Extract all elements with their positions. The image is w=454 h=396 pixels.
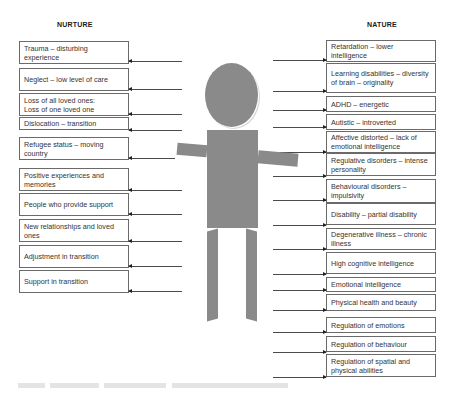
arrow-right [273, 176, 326, 177]
nature-box: Affective distorted – lack of emotional … [326, 131, 436, 153]
figure-left-arm [177, 143, 208, 158]
nature-box: Regulation of emotions [326, 317, 436, 333]
arrow-right [273, 290, 326, 291]
arrow-right [273, 225, 326, 226]
arrow-right [273, 377, 326, 378]
nurture-heading: NURTURE [57, 21, 93, 28]
nurture-box: Dislocation – transition [19, 117, 129, 130]
arrow-right [273, 274, 326, 275]
nature-box: Retardation – lower intelligence [326, 40, 436, 62]
figure-right-arm [258, 150, 299, 166]
nurture-box: Neglect – low level of care [19, 68, 129, 91]
arrow-left [129, 89, 182, 90]
nurture-box: New relationships and loved ones [19, 219, 129, 242]
arrow-left [129, 190, 182, 191]
nature-box: Physical health and beauty [326, 294, 436, 311]
figure-head [205, 63, 258, 127]
figure-torso [207, 130, 258, 228]
nurture-box: Refugee status – moving country [19, 137, 129, 160]
arrow-left [129, 291, 182, 292]
figure-right-leg [246, 229, 257, 322]
nurture-box: People who provide support [19, 193, 129, 216]
arrow-right [273, 352, 326, 353]
arrow-left [129, 158, 175, 159]
arrow-left [129, 214, 182, 215]
arrow-left [129, 130, 182, 131]
nature-box: Learning disabilities – diversity of bra… [326, 63, 436, 93]
arrow-left [129, 61, 182, 62]
arrow-right [273, 310, 326, 311]
arrow-right [273, 127, 326, 128]
nature-box: Regulative disorders – intense personali… [326, 153, 436, 176]
arrow-right [273, 249, 326, 250]
arrow-right [273, 60, 326, 61]
nature-box: Disability – partial disability [326, 203, 436, 225]
nature-box: ADHD – energetic [326, 96, 436, 112]
arrow-right [273, 200, 326, 201]
nature-box: Regulation of behaviour [326, 336, 436, 352]
nature-box: Autistic – introverted [326, 114, 436, 130]
nature-box: Emotional intelligence [326, 277, 436, 292]
nature-box: Behavioural disorders – impulsivity [326, 179, 436, 203]
nature-heading: NATURE [367, 21, 397, 28]
arrow-right [273, 332, 326, 333]
arrow-left [129, 266, 182, 267]
arrow-left [129, 241, 182, 242]
nurture-box: Adjustment in transition [19, 245, 129, 268]
nature-box: High cognitive intelligence [326, 252, 436, 274]
nurture-box: Loss of all loved ones: Loss of one love… [19, 93, 129, 116]
figure-left-leg [207, 229, 218, 322]
figure-caption-illegible [18, 383, 288, 388]
arrow-right [273, 110, 326, 111]
nature-box: Regulation of spatial and physical abili… [326, 354, 436, 377]
nurture-box: Trauma – disturbing experience [19, 41, 129, 64]
nurture-box: Positive experiences and memories [19, 168, 129, 191]
nature-box: Degenerative illness – chronic illness [326, 228, 436, 250]
arrow-left [129, 114, 182, 115]
nurture-box: Support in transition [19, 270, 129, 293]
arrow-right [273, 91, 326, 92]
